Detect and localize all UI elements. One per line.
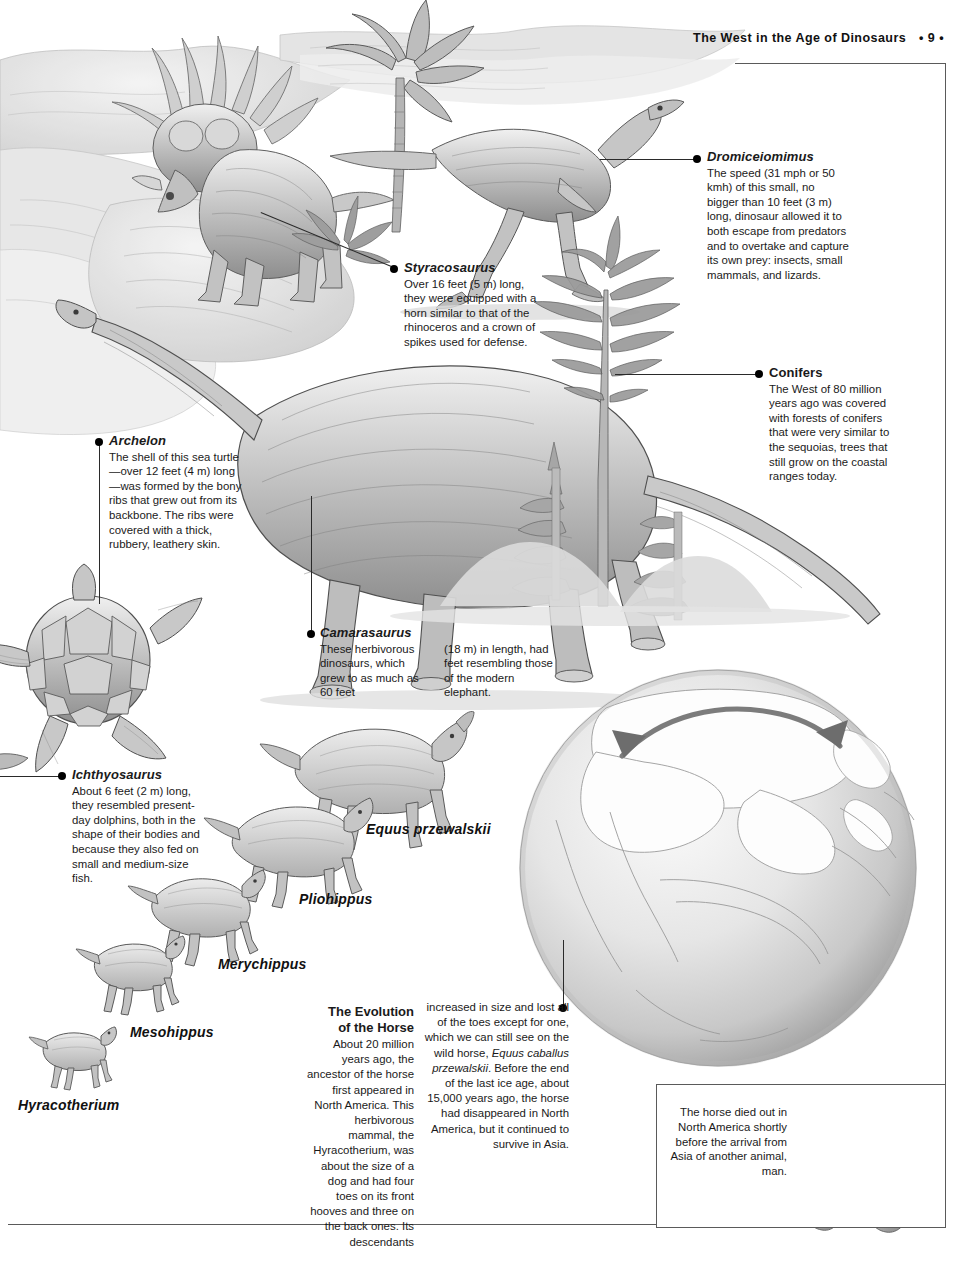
evolution-label-equus-przewalskii: Equus przewalskii [366, 821, 491, 837]
horse-essay-heading: The Evolution of the Horse [306, 1004, 414, 1035]
bullet-dot-conifers [755, 370, 763, 378]
bullet-dot-camarasaurus [307, 630, 315, 638]
archelon-illustration [0, 564, 202, 772]
horse-essay-body-left: About 20 million years ago, the ancestor… [307, 1038, 414, 1248]
bullet-dot-ichthyosaurus [58, 772, 66, 780]
callout-body-camarasaurus-col2: (18 m) in length, had feet resembling th… [444, 642, 556, 700]
hyracotherium-illustration [29, 1027, 116, 1090]
callout-styracosaurus: Styracosaurus Over 16 feet (5 m) long, t… [404, 261, 538, 350]
evolution-label-mesohippus: Mesohippus [130, 1024, 214, 1040]
horse-essay-column-right: increased in size and lost all of the to… [424, 1000, 569, 1152]
evolution-label-pliohippus: Pliohippus [299, 891, 373, 907]
evolution-label-hyracotherium: Hyracotherium [18, 1097, 119, 1113]
bullet-dot-styracosaurus [390, 265, 398, 273]
leader-line-globe [563, 940, 564, 1008]
callout-title-styracosaurus: Styracosaurus [404, 261, 538, 276]
callout-body-conifers: The West of 80 million years ago was cov… [769, 382, 897, 484]
page-number: • 9 • [919, 31, 944, 45]
callout-ichthyosaurus: Ichthyosaurus About 6 feet (2 m) long, t… [72, 768, 200, 886]
bullet-dot-archelon [95, 438, 103, 446]
horse-essay-heading-line2: of the Horse [338, 1020, 414, 1035]
page-header: The West in the Age of Dinosaurs • 9 • [693, 31, 944, 45]
artifact-panel-caption: The horse died out in North America shor… [669, 1105, 787, 1179]
leader-line-dromiceiomimus [600, 159, 695, 160]
page-root: The West in the Age of Dinosaurs • 9 • D… [0, 0, 954, 1278]
callout-dromiceiomimus: Dromiceiomimus The speed (31 mph or 50 k… [707, 150, 849, 282]
horse-essay-body-right-b: . Before the end of the last ice age, ab… [427, 1062, 569, 1150]
callout-title-camarasaurus: Camarasaurus [320, 626, 565, 641]
leader-line-camarasaurus [311, 496, 312, 631]
frame-right-rule [945, 63, 946, 1227]
callout-archelon: Archelon The shell of this sea turtle—ov… [109, 434, 243, 552]
mesohippus-illustration [76, 936, 185, 1015]
leader-line-ichthyosaurus [0, 776, 60, 777]
artifact-panel: The horse died out in North America shor… [656, 1084, 946, 1228]
callout-title-conifers: Conifers [769, 366, 897, 381]
bullet-dot-dromiceiomimus [693, 155, 701, 163]
callout-body-archelon: The shell of this sea turtle—over 12 fee… [109, 450, 243, 552]
leader-line-archelon [99, 444, 100, 604]
callout-title-ichthyosaurus: Ichthyosaurus [72, 768, 200, 783]
callout-camarasaurus: Camarasaurus These herbivorous dinosaurs… [320, 626, 565, 700]
callout-body-styracosaurus: Over 16 feet (5 m) long, they were equip… [404, 277, 538, 350]
callout-body-camarasaurus-col1: These herbivorous dinosaurs, which grew … [320, 642, 430, 700]
leader-line-styracosaurus [261, 212, 396, 269]
horse-essay-column-left: The Evolution of the Horse About 20 mill… [306, 1004, 414, 1250]
evolution-label-merychippus: Merychippus [218, 956, 307, 972]
callout-body-ichthyosaurus: About 6 feet (2 m) long, they resembled … [72, 784, 200, 886]
ichthyosaurus-illustration [0, 754, 28, 770]
callout-title-dromiceiomimus: Dromiceiomimus [707, 150, 849, 165]
cycad-trees [292, 0, 484, 264]
callout-conifers: Conifers The West of 80 million years ag… [769, 366, 897, 484]
header-title: The West in the Age of Dinosaurs [693, 31, 906, 45]
leader-line-conifers [615, 374, 761, 375]
globe-illustration [520, 670, 916, 1066]
styracosaurus-illustration [112, 36, 394, 306]
frame-top-rule [735, 63, 946, 64]
callout-title-archelon: Archelon [109, 434, 243, 449]
callout-body-dromiceiomimus: The speed (31 mph or 50 kmh) of this sma… [707, 166, 849, 283]
horse-essay-heading-line1: The Evolution [328, 1004, 414, 1019]
